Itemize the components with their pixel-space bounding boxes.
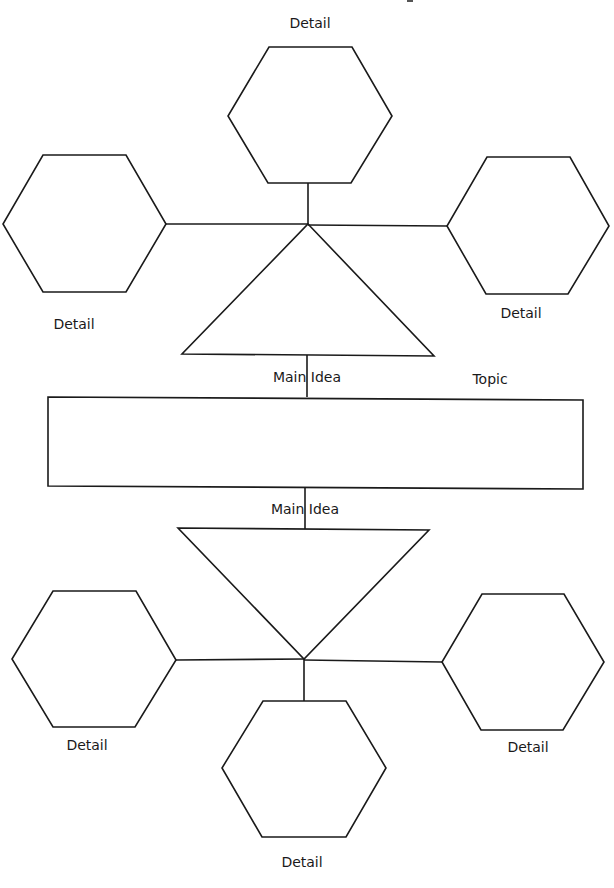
main-idea-triangle-upper[interactable] (182, 224, 434, 356)
connector-lower-right (304, 660, 442, 662)
detail-hexagon-upper-top[interactable] (228, 47, 392, 183)
main-idea-label-upper: Main Idea (273, 369, 341, 385)
detail-hexagon-upper-left[interactable] (3, 155, 166, 292)
graphic-organizer: Detail Detail Detail Main Idea Topic Mai… (0, 0, 614, 888)
detail-label-upper-right: Detail (500, 305, 541, 321)
topic-label: Topic (471, 371, 507, 387)
topic-box[interactable] (48, 397, 583, 489)
detail-label-upper-top: Detail (289, 15, 330, 31)
clipped-title-fragment (407, 0, 413, 2)
main-idea-label-lower: Main Idea (271, 501, 339, 517)
detail-label-lower-left: Detail (66, 737, 107, 753)
detail-label-lower-right: Detail (507, 739, 548, 755)
connector-upper-right (308, 225, 447, 226)
detail-hexagon-lower-left[interactable] (12, 591, 176, 727)
detail-hexagon-lower-right[interactable] (442, 594, 604, 730)
detail-label-upper-left: Detail (53, 316, 94, 332)
connector-lower-left (176, 659, 304, 660)
main-idea-triangle-lower[interactable] (178, 528, 429, 659)
detail-label-lower-bottom: Detail (281, 854, 322, 870)
detail-hexagon-lower-bottom[interactable] (222, 701, 386, 837)
detail-hexagon-upper-right[interactable] (447, 157, 609, 294)
